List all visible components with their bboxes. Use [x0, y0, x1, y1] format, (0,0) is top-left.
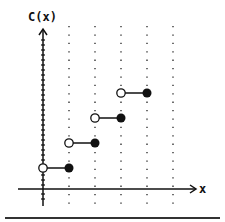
open-circle-marker — [91, 114, 99, 122]
closed-circle-marker — [65, 164, 74, 173]
x-axis — [18, 185, 196, 193]
step-4 — [117, 89, 152, 98]
step-function-chart: x C(x) — [0, 0, 225, 222]
closed-circle-marker — [91, 139, 100, 148]
open-circle-marker — [65, 139, 73, 147]
x-axis-label: x — [199, 182, 206, 196]
y-axis-label: C(x) — [28, 10, 57, 24]
closed-circle-marker — [117, 114, 126, 123]
open-circle-marker — [117, 89, 125, 97]
step-3 — [91, 114, 126, 123]
step-2 — [65, 139, 100, 148]
open-circle-marker — [39, 164, 47, 172]
step-1 — [39, 164, 74, 173]
closed-circle-marker — [143, 89, 152, 98]
